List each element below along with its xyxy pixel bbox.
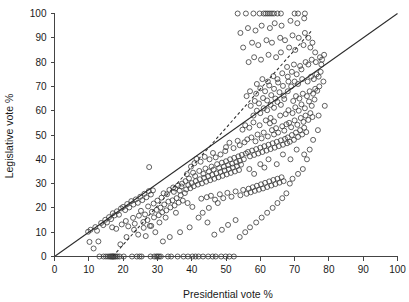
scatter-plot-figure: 0102030405060708090100 01020304050607080…: [0, 0, 409, 302]
data-point: [304, 130, 309, 135]
data-point: [301, 43, 306, 48]
data-point: [301, 119, 306, 124]
data-point: [265, 134, 270, 139]
data-point: [278, 50, 283, 55]
data-point: [141, 225, 146, 230]
data-point: [160, 239, 165, 244]
data-point: [249, 135, 254, 140]
data-point: [254, 81, 259, 86]
data-point: [291, 62, 296, 67]
x-tick-label: 90: [358, 264, 370, 275]
data-point: [200, 210, 205, 215]
data-point: [153, 230, 158, 235]
data-point: [248, 103, 253, 108]
data-point: [295, 21, 300, 26]
data-point: [241, 45, 246, 50]
data-point: [280, 71, 285, 76]
data-point: [272, 105, 277, 110]
y-axis-ticks: 0102030405060708090100: [30, 8, 55, 262]
data-point: [173, 210, 178, 215]
data-point: [259, 23, 264, 28]
data-point: [304, 157, 309, 162]
data-point: [283, 38, 288, 43]
x-tick-label: 50: [220, 264, 232, 275]
data-point: [310, 40, 315, 45]
data-point: [238, 193, 243, 198]
data-point: [167, 235, 172, 240]
data-point: [312, 97, 317, 102]
data-point: [313, 50, 318, 55]
data-point: [305, 79, 310, 84]
data-point: [143, 212, 148, 217]
x-tick-label: 100: [389, 264, 406, 275]
y-tick-label: 30: [35, 178, 47, 189]
data-point: [132, 221, 137, 226]
data-point: [242, 140, 247, 145]
data-point: [246, 60, 251, 65]
data-point: [292, 79, 297, 84]
data-point: [265, 98, 270, 103]
data-point: [225, 190, 230, 195]
data-point: [136, 213, 141, 218]
data-point: [237, 235, 242, 240]
x-tick-label: 10: [83, 264, 95, 275]
data-point: [207, 157, 212, 162]
data-point: [260, 77, 265, 82]
x-tick-label: 40: [186, 264, 198, 275]
data-point: [259, 215, 264, 220]
data-points-layer: [86, 11, 328, 259]
data-point: [151, 215, 156, 220]
y-tick-label: 100: [30, 8, 47, 19]
data-point: [265, 210, 270, 215]
data-point: [256, 101, 261, 106]
data-point: [157, 220, 162, 225]
data-point: [302, 106, 307, 111]
data-point: [318, 69, 323, 74]
data-point: [317, 84, 322, 89]
data-point: [186, 176, 191, 181]
data-point: [235, 11, 240, 16]
data-point: [256, 43, 261, 48]
data-point: [270, 205, 275, 210]
data-point: [183, 179, 188, 184]
data-point: [278, 11, 283, 16]
data-point: [251, 11, 256, 16]
identity-line: [55, 14, 398, 257]
data-point: [289, 69, 294, 74]
data-point: [300, 167, 305, 172]
y-tick-label: 10: [35, 227, 47, 238]
data-point: [267, 26, 272, 31]
data-point: [215, 201, 220, 206]
data-point: [118, 242, 123, 247]
data-point: [274, 162, 279, 167]
data-point: [284, 191, 289, 196]
data-point: [226, 222, 231, 227]
data-point: [202, 154, 207, 159]
x-tick-label: 0: [52, 264, 58, 275]
data-point: [219, 227, 224, 232]
data-point: [274, 55, 279, 60]
data-point: [289, 125, 294, 130]
data-point: [279, 23, 284, 28]
data-point: [291, 98, 296, 103]
data-point: [218, 152, 223, 157]
data-point: [285, 74, 290, 79]
data-point: [154, 207, 159, 212]
x-tick-label: 70: [289, 264, 301, 275]
data-point: [304, 94, 309, 99]
data-point: [297, 96, 302, 101]
data-point: [247, 125, 252, 130]
data-point: [276, 80, 281, 85]
data-point: [272, 21, 277, 26]
data-point: [126, 224, 131, 229]
data-point: [309, 103, 314, 108]
data-point: [258, 57, 263, 62]
data-point: [254, 220, 259, 225]
data-point: [147, 165, 152, 170]
data-point: [280, 152, 285, 157]
y-tick-label: 0: [41, 251, 47, 262]
data-point: [231, 146, 236, 151]
x-tick-label: 80: [323, 264, 335, 275]
data-point: [266, 52, 271, 57]
data-point: [310, 115, 315, 120]
